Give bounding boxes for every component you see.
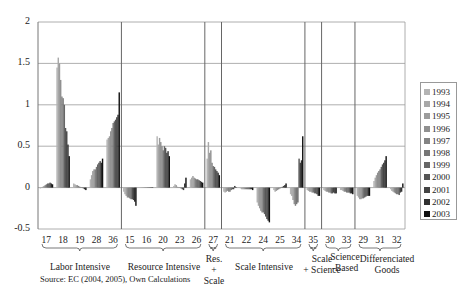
- bar-18-2002: [67, 145, 68, 188]
- bar-25-2001: [283, 186, 284, 188]
- bar-25-2000: [282, 187, 283, 188]
- bar-26-1996: [193, 178, 194, 188]
- bar-35-2002: [317, 188, 318, 196]
- bar-18-1998: [62, 98, 63, 187]
- y-tick-label: 1: [4, 98, 30, 109]
- bar-20-2003: [169, 156, 170, 187]
- bar-31-1999: [381, 167, 382, 188]
- bar-32-1997: [395, 188, 396, 194]
- y-tick-label: 0: [4, 181, 30, 192]
- y-tick-label: 2: [4, 15, 30, 26]
- bar-23-1993: [173, 186, 174, 188]
- bar-35-1996: [310, 188, 311, 192]
- bar-34-1999: [297, 188, 298, 203]
- bar-22-1998: [246, 188, 247, 190]
- bar-25-1997: [278, 188, 279, 190]
- bar-20-2000: [165, 148, 166, 188]
- bar-31-2003: [385, 156, 386, 187]
- bar-28-1997: [95, 169, 96, 187]
- bar-35-1995: [309, 188, 310, 192]
- bar-28-1996: [93, 169, 94, 187]
- legend-label: 1999: [432, 160, 450, 170]
- bar-15-2001: [133, 188, 134, 200]
- bar-36-2002: [117, 115, 118, 188]
- bar-18-2003: [68, 156, 69, 187]
- group-label-resource-intensive: Resource Intensive: [122, 262, 206, 273]
- bar-22-1993: [240, 188, 241, 189]
- legend-label: 1998: [432, 148, 450, 158]
- bar-33-2003: [352, 188, 353, 195]
- bar-26-1999: [197, 179, 198, 187]
- bar-36-1995: [109, 136, 110, 187]
- legend-swatch: [424, 211, 430, 217]
- bar-17-1997: [45, 185, 46, 187]
- group-label-labor-intensive: Labor Intensive: [38, 262, 122, 273]
- group-brace: [326, 244, 351, 251]
- bar-22-1996: [243, 188, 244, 190]
- bar-31-2002: [384, 160, 385, 187]
- legend-item: 2001: [424, 184, 456, 196]
- legend-item: 1994: [424, 98, 456, 110]
- bar-17-1995: [42, 187, 43, 188]
- bar-15-2000: [132, 188, 133, 200]
- bar-29-1995: [359, 188, 360, 200]
- bar-34-1996: [294, 188, 295, 205]
- bar-25-1996: [277, 188, 278, 190]
- bar-31-1994: [375, 178, 376, 188]
- bar-36-1997: [111, 128, 112, 188]
- legend-item: 2003: [424, 208, 456, 220]
- bar-19-1993: [73, 183, 74, 187]
- bar-31-1998: [379, 169, 380, 187]
- bar-28-1993: [90, 179, 91, 187]
- bar-20-1995: [159, 138, 160, 188]
- bar-26-2003: [202, 183, 203, 188]
- bar-27-1999: [214, 167, 215, 188]
- bar-28-2001: [99, 161, 100, 187]
- bar-19-2003: [85, 188, 86, 190]
- legend-swatch: [424, 101, 430, 107]
- chart-container: 21.510.50-0.5 17181928361516202326272122…: [0, 0, 464, 299]
- legend-swatch: [424, 138, 430, 144]
- bar-31-2001: [383, 163, 384, 188]
- group-brace: [209, 244, 218, 251]
- bar-36-2003: [119, 92, 120, 187]
- bar-19-2002: [84, 188, 85, 190]
- bar-23-2000: [182, 188, 183, 190]
- bar-36-2000: [115, 120, 116, 188]
- bar-26-1993: [190, 179, 191, 187]
- y-tick-label: 0.5: [4, 139, 30, 150]
- bar-20-1998: [163, 150, 164, 187]
- bar-22-1994: [241, 188, 242, 190]
- bar-21-1997: [228, 188, 229, 192]
- bar-30-1996: [327, 188, 328, 192]
- bar-36-1996: [110, 131, 111, 187]
- bar-18-1997: [61, 97, 62, 188]
- bar-29-2002: [368, 188, 369, 196]
- bar-33-1994: [341, 188, 342, 190]
- bar-34-1997: [295, 188, 296, 206]
- legend-item: 1993: [424, 86, 456, 98]
- bar-20-1994: [158, 145, 159, 188]
- bar-36-1998: [112, 123, 113, 188]
- bar-24-2001: [266, 188, 267, 219]
- bar-22-1995: [242, 188, 243, 190]
- bar-18-2001: [66, 131, 67, 187]
- bar-26-1995: [192, 176, 193, 188]
- bar-15-2003: [135, 188, 136, 206]
- legend-item: 1995: [424, 110, 456, 122]
- bar-30-1999: [331, 188, 332, 194]
- group-brace: [309, 244, 318, 251]
- bar-17-2000: [48, 183, 49, 187]
- bar-31-1997: [378, 171, 379, 188]
- legend-label: 1994: [432, 99, 450, 109]
- bar-20-1997: [161, 146, 162, 187]
- bar-34-2000: [298, 159, 299, 188]
- bar-34-2001: [300, 163, 301, 188]
- bar-32-2003: [402, 183, 403, 187]
- bar-29-1994: [358, 188, 359, 198]
- bar-18-1995: [59, 63, 60, 187]
- bar-15-2002: [134, 188, 135, 202]
- x-tick-label: 32: [387, 235, 407, 245]
- bar-36-1999: [114, 121, 115, 187]
- bar-28-1995: [92, 171, 93, 188]
